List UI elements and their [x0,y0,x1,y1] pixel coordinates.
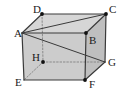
vertex-dot-f [83,78,87,82]
vertex-label-b: B [89,34,96,46]
geometry-figure-container: ABCDEFGH [0,0,120,102]
vertex-dot-b [84,31,88,35]
vertex-label-h: H [32,51,40,63]
cuboid-diagram: ABCDEFGH [0,0,120,102]
vertex-label-d: D [33,3,41,15]
vertex-dot-c [104,12,108,16]
vertex-label-a: A [14,27,22,39]
vertex-label-f: F [89,78,95,90]
vertex-label-g: G [108,56,116,68]
vertex-label-c: C [109,3,116,15]
vertex-dot-h [41,60,45,64]
vertex-label-e: E [15,76,22,88]
